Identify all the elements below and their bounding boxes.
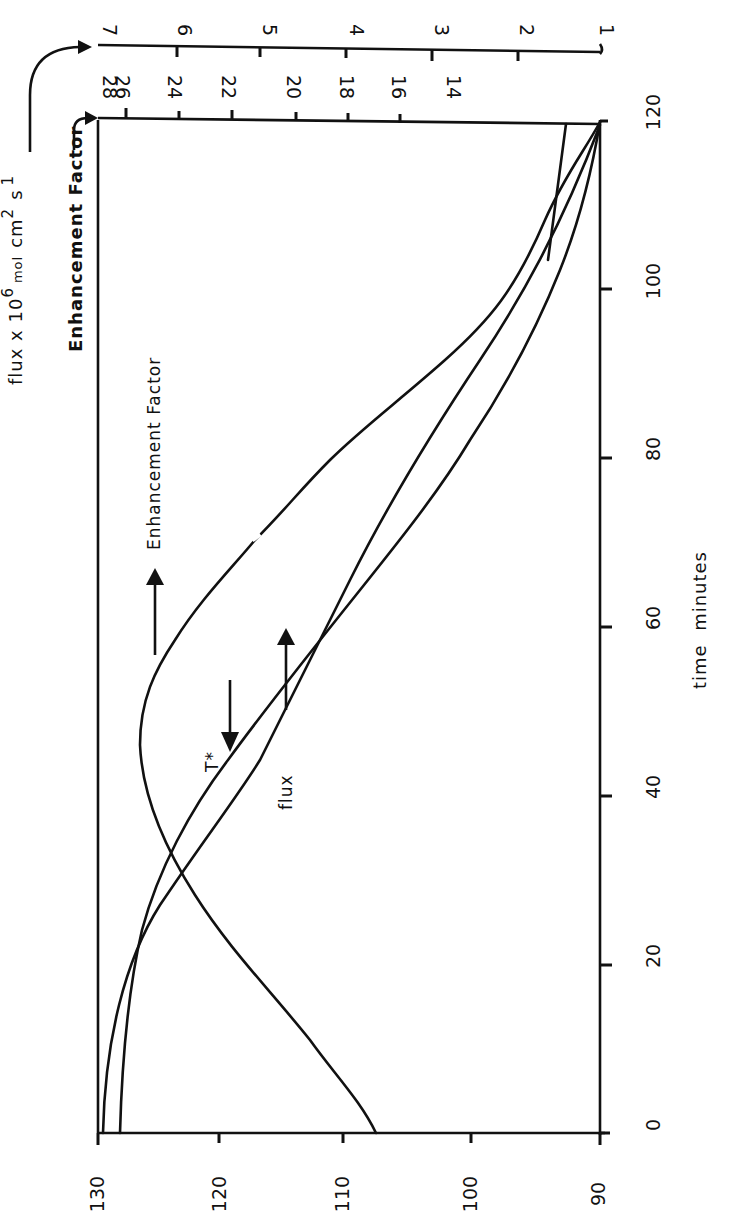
chart-figure: 7 6 5 4 3 2 1 28 28 26 24 22 20 18 16 14… xyxy=(0,0,734,1226)
arrow-up-icon xyxy=(277,628,295,645)
svg-text:flux x 106molcm2s1: flux x 106molcm2s1 xyxy=(0,175,26,385)
ef-tick-label: 18 xyxy=(336,75,358,99)
ef-tick-label: 22 xyxy=(218,75,240,99)
ef-tick-label: 26 xyxy=(112,75,134,99)
ef-tick-label: 24 xyxy=(164,75,186,99)
tstar-tick-label: 90 xyxy=(587,1182,609,1206)
flux-tick-label: 5 xyxy=(259,24,281,36)
enhancement-axis: 28 28 26 24 22 20 18 16 14 xyxy=(74,75,465,150)
tstar-tick-label: 100 xyxy=(459,1176,481,1212)
time-tick-label: 120 xyxy=(642,94,664,130)
ef-tick-label: 14 xyxy=(443,75,465,99)
time-tick-label: 40 xyxy=(642,775,664,799)
time-tick-label: 80 xyxy=(642,437,664,461)
arrowhead-icon xyxy=(85,111,98,125)
annotations: Enhancement Factor T* flux xyxy=(144,357,296,810)
flux-tick-label: 6 xyxy=(174,24,196,36)
time-tick-label: 0 xyxy=(642,1119,664,1131)
flux-curve-label: flux xyxy=(276,774,296,810)
plot-frame xyxy=(98,118,605,1135)
arrow-up-icon xyxy=(146,568,164,585)
ef-tick-label: 20 xyxy=(283,75,305,99)
tstar-curve xyxy=(120,122,600,1133)
tstar-axis: 130 120 110 100 90 xyxy=(86,1133,609,1212)
tstar-tick-label: 120 xyxy=(208,1176,230,1212)
ef-axis-title: Enhancement Factor xyxy=(65,126,86,352)
ef-tick-label: 16 xyxy=(388,75,410,99)
flux-end-segment xyxy=(548,124,566,260)
time-tick-label: 20 xyxy=(642,944,664,968)
flux-axis-end xyxy=(600,44,602,54)
flux-tick-label: 2 xyxy=(516,24,538,36)
arrowhead-icon xyxy=(78,40,92,54)
tstar-tick-label: 110 xyxy=(331,1176,353,1212)
time-axis: 0 20 40 60 80 100 120 time minutes xyxy=(600,94,710,1133)
flux-tick-label: 4 xyxy=(346,24,368,36)
time-axis-title: time minutes xyxy=(689,551,710,689)
curves xyxy=(103,122,600,1133)
tstar-curve-label: T* xyxy=(202,751,222,773)
flux-tick-label: 3 xyxy=(431,24,453,36)
ef-curve-label: Enhancement Factor xyxy=(144,357,164,550)
flux-tick-label: 1 xyxy=(596,24,618,36)
tstar-tick-label: 130 xyxy=(86,1176,108,1212)
flux-tick-label: 7 xyxy=(99,24,121,36)
time-tick-label: 100 xyxy=(642,263,664,299)
flux-curve xyxy=(103,125,600,1133)
left-axis-titles: flux x 106molcm2s1 Enhancement Factor xyxy=(0,126,86,385)
time-tick-label: 60 xyxy=(642,606,664,630)
flux-axis-line xyxy=(98,45,600,52)
flux-axis-title: flux x 10 xyxy=(5,298,26,385)
